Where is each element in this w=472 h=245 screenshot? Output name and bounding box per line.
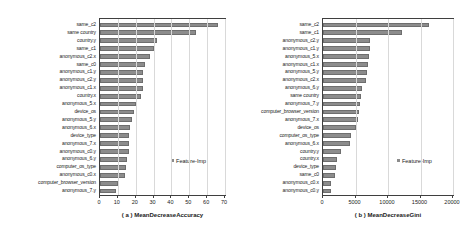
x-tick-mark <box>387 196 388 198</box>
gridline <box>225 19 226 195</box>
x-axis-tick-label: 30 <box>150 199 156 205</box>
y-axis-tick-label: same_c1 <box>0 45 96 51</box>
y-axis-tick-label: country.x <box>0 92 96 98</box>
x-axis-tick-label: 70 <box>221 199 227 205</box>
bar <box>323 173 335 178</box>
x-tick-mark <box>322 196 323 198</box>
x-axis-tick-label: 60 <box>203 199 209 205</box>
legend-b: Feature-Imp <box>397 158 432 164</box>
y-axis-tick-label: anonymous_c0.x <box>0 171 96 177</box>
chart-panel-a: same_c2same countrycountry.ysame_c1anony… <box>0 0 236 245</box>
y-axis-tick-label: anonymous_c1.x <box>236 61 319 67</box>
x-axis-tick-label: 0 <box>97 199 100 205</box>
y-axis-tick-label: country.y <box>236 148 319 154</box>
bar <box>323 30 402 35</box>
x-axis-title-a: ( a ) MeanDecreaseAccuracy <box>122 212 203 218</box>
y-axis-tick-label: anonymous_6.y <box>0 155 96 161</box>
bar <box>323 23 429 28</box>
y-axis-tick-label: same_c2 <box>0 21 96 27</box>
y-axis-tick-label: anonymous_c0.x <box>236 179 319 185</box>
y-axis-tick-label: device_os <box>236 124 319 130</box>
x-axis-tick-label: 0 <box>320 199 323 205</box>
y-axis-tick-label: device_type <box>0 132 96 138</box>
x-tick-mark <box>206 196 207 198</box>
legend-label: Feature-Imp <box>176 158 206 164</box>
y-axis-tick-label: anonymous_5.y <box>236 68 319 74</box>
y-axis-tick-label: anonymous_c1.x <box>0 84 96 90</box>
x-axis-tick-label: 50 <box>185 199 191 205</box>
x-axis-tick-label: 20 <box>132 199 138 205</box>
bar <box>323 38 370 43</box>
bar <box>100 133 129 138</box>
legend-label: Feature-Imp <box>402 158 432 164</box>
gridline <box>207 19 208 195</box>
gridline <box>154 19 155 195</box>
y-axis-tick-label: anonymous_7.y <box>0 187 96 193</box>
y-axis-tick-label: computer_browser_version <box>236 108 319 114</box>
bar <box>100 141 129 146</box>
bar <box>323 102 360 107</box>
y-axis-tick-label: anonymous_7.x <box>0 140 96 146</box>
gridline <box>171 19 172 195</box>
bar <box>323 78 366 83</box>
y-axis-tick-label: anonymous_5.y <box>0 116 96 122</box>
bar <box>323 70 367 75</box>
x-tick-mark <box>99 196 100 198</box>
bar <box>323 133 351 138</box>
plot-area-b: Feature-Imp <box>322 18 454 196</box>
bar <box>323 149 341 154</box>
y-axis-tick-label: anonymous_6.x <box>236 140 319 146</box>
x-axis-tick-label: 10000 <box>379 199 394 205</box>
y-axis-tick-label: anonymous_c2.y <box>0 76 96 82</box>
y-axis-tick-label: anonymous_c2.y <box>236 37 319 43</box>
y-axis-labels-b: same_c2same_c1anonymous_c2.yanonymous_c1… <box>236 0 319 245</box>
bar <box>100 149 129 154</box>
gridline <box>453 19 454 195</box>
gridline <box>136 19 137 195</box>
x-tick-mark <box>224 196 225 198</box>
y-axis-tick-label: same_c2 <box>236 21 319 27</box>
x-tick-mark <box>135 196 136 198</box>
gridline <box>356 19 357 195</box>
x-tick-mark <box>117 196 118 198</box>
gridline <box>118 19 119 195</box>
x-axis-tick-label: 5000 <box>348 199 360 205</box>
bar <box>100 62 145 67</box>
gridline <box>388 19 389 195</box>
x-tick-mark <box>452 196 453 198</box>
bar <box>323 157 337 162</box>
bar <box>100 165 126 170</box>
bar <box>100 157 127 162</box>
bar <box>100 38 157 43</box>
x-tick-mark <box>420 196 421 198</box>
bar <box>100 181 118 186</box>
y-axis-tick-label: anonymous_c2.x <box>236 76 319 82</box>
y-axis-tick-label: anonymous_c1.y <box>236 45 319 51</box>
plot-area-a: Feature-Imp <box>99 18 226 196</box>
bar <box>323 117 358 122</box>
y-axis-tick-label: anonymous_5.x <box>0 100 96 106</box>
y-axis-tick-label: same_c0 <box>0 61 96 67</box>
y-axis-tick-label: same_c0 <box>236 171 319 177</box>
y-axis-tick-label: same_c1 <box>236 29 319 35</box>
x-tick-mark <box>188 196 189 198</box>
bar <box>100 125 130 130</box>
gridline <box>421 19 422 195</box>
y-axis-tick-label: anonymous_c0.y <box>236 187 319 193</box>
x-axis-tick-label: 20000 <box>444 199 459 205</box>
chart-panel-b: same_c2same_c1anonymous_c2.yanonymous_c1… <box>236 0 472 245</box>
figure-root: same_c2same countrycountry.ysame_c1anony… <box>0 0 472 245</box>
y-axis-tick-label: device_os <box>0 108 96 114</box>
x-axis-tick-label: 15000 <box>412 199 427 205</box>
y-axis-tick-label: same country <box>236 92 319 98</box>
bar <box>323 181 331 186</box>
bar <box>100 54 150 59</box>
bar <box>100 30 196 35</box>
y-axis-tick-label: computer_browser_version <box>0 179 96 185</box>
bar <box>323 62 368 67</box>
y-axis-tick-label: anonymous_7.x <box>236 116 319 122</box>
y-axis-tick-label: anonymous_6.y <box>236 84 319 90</box>
bar <box>100 117 132 122</box>
x-axis-tick-label: 10 <box>114 199 120 205</box>
y-axis-tick-label: anonymous_c2.x <box>0 53 96 59</box>
